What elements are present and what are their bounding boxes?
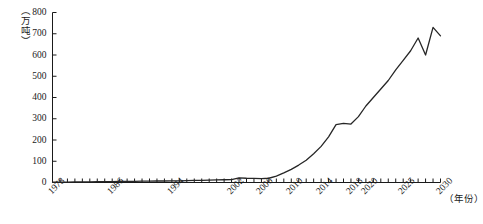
line-chart: （万吨） （年份） 0100200300400500600700800 1978… bbox=[0, 0, 483, 224]
plot-area bbox=[0, 0, 483, 224]
data-series bbox=[53, 27, 441, 182]
y-axis-ticks bbox=[53, 13, 57, 183]
series-line bbox=[53, 27, 441, 182]
axes bbox=[53, 13, 441, 183]
